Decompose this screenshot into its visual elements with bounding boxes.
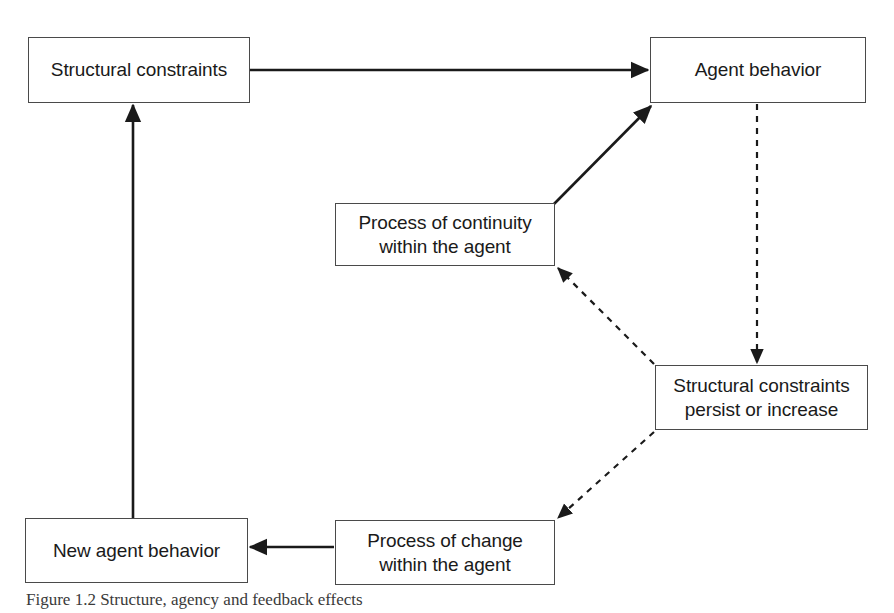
edge-persist-to-change [558, 432, 654, 518]
node-agent-behavior: Agent behavior [650, 37, 866, 103]
node-label: Structural constraints [45, 58, 233, 81]
node-label: Process of change within the agent [361, 529, 529, 575]
figure-container: Structural constraints Agent behavior Pr… [0, 0, 894, 613]
node-process-of-continuity: Process of continuity within the agent [335, 203, 555, 266]
node-structural-constraints: Structural constraints [28, 37, 250, 103]
figure-caption: Figure 1.2 Structure, agency and feedbac… [26, 590, 866, 610]
edge-continuity-to-behavior [553, 106, 651, 205]
node-label: Structural constraints persist or increa… [667, 374, 855, 420]
edge-persist-to-continuity [558, 268, 654, 364]
node-new-agent-behavior: New agent behavior [25, 518, 248, 583]
node-label: Process of continuity within the agent [352, 211, 537, 257]
node-label: Agent behavior [689, 58, 827, 81]
node-structural-constraints-persist: Structural constraints persist or increa… [655, 365, 868, 430]
node-process-of-change: Process of change within the agent [335, 520, 555, 585]
node-label: New agent behavior [47, 539, 226, 562]
